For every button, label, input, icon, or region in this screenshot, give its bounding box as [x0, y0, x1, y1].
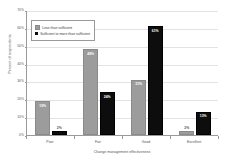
y-axis-tick-label: 20%: [12, 99, 24, 102]
y-axis-tick-label: 70%: [12, 9, 24, 12]
bar-value-label: 2%: [184, 127, 189, 131]
bar[interactable]: 24%: [100, 92, 115, 135]
y-axis-tick-label: 40%: [12, 63, 24, 66]
bar[interactable]: 19%: [35, 101, 50, 135]
bar-value-label: 2%: [57, 127, 62, 131]
x-axis-tick-mark: [170, 136, 171, 139]
x-axis-tick-mark: [74, 136, 75, 139]
y-axis-tick-mark: [25, 65, 28, 66]
y-axis-tick-label: 50%: [12, 45, 24, 48]
bar[interactable]: 61%: [148, 26, 163, 135]
legend-swatch-icon: [35, 32, 38, 35]
bar-group: 31%61%: [123, 11, 171, 135]
bar[interactable]: 2%: [52, 131, 67, 135]
x-axis-tick-label: Poor: [46, 140, 53, 144]
y-axis-tick-mark: [25, 82, 28, 83]
legend-item-label: Less than sufficient: [42, 26, 72, 30]
chart-legend: Less than sufficientSufficient to more t…: [31, 20, 95, 41]
bar-value-label: 19%: [39, 105, 46, 109]
bar[interactable]: 31%: [131, 80, 146, 135]
legend-item[interactable]: Less than sufficient: [35, 25, 90, 30]
y-axis-tick-mark: [25, 100, 28, 101]
bar[interactable]: 48%: [83, 49, 98, 135]
bar-value-label: 48%: [87, 53, 94, 57]
y-axis-tick-mark: [25, 29, 28, 30]
x-axis-tick-mark: [122, 136, 123, 139]
y-axis-tick-labels: 0%10%20%30%40%50%60%70%: [12, 11, 24, 136]
legend-swatch-icon: [35, 25, 40, 30]
x-axis-tick-label: Excellent: [187, 140, 201, 144]
x-axis-tick-label: Good: [142, 140, 151, 144]
y-axis-tick-label: 0%: [12, 134, 24, 137]
y-axis-tick-label: 10%: [12, 116, 24, 119]
x-axis-title: Change management effectiveness: [26, 150, 218, 154]
y-axis-tick-mark: [25, 11, 28, 12]
y-axis-tick-label: 30%: [12, 81, 24, 84]
y-axis-tick-mark: [25, 47, 28, 48]
bar[interactable]: 2%: [179, 131, 194, 135]
legend-item[interactable]: Sufficient to more than sufficient: [35, 32, 90, 36]
bar-value-label: 13%: [200, 115, 207, 119]
y-axis-tick-label: 60%: [12, 27, 24, 30]
x-axis-tick-mark: [26, 136, 27, 139]
legend-item-label: Sufficient to more than sufficient: [40, 32, 90, 36]
bar[interactable]: 13%: [196, 112, 211, 135]
x-axis-tick-labels: PoorFairGoodExcellent: [26, 136, 218, 148]
bar-value-label: 31%: [135, 83, 142, 87]
bar-group: 2%13%: [171, 11, 219, 135]
x-axis-tick-label: Fair: [95, 140, 101, 144]
bar-value-label: 61%: [152, 30, 159, 34]
bar-chart: Percent of respondents 0%10%20%30%40%50%…: [0, 0, 227, 164]
bar-value-label: 24%: [104, 96, 111, 100]
x-axis-tick-mark: [218, 136, 219, 139]
y-axis-tick-mark: [25, 118, 28, 119]
